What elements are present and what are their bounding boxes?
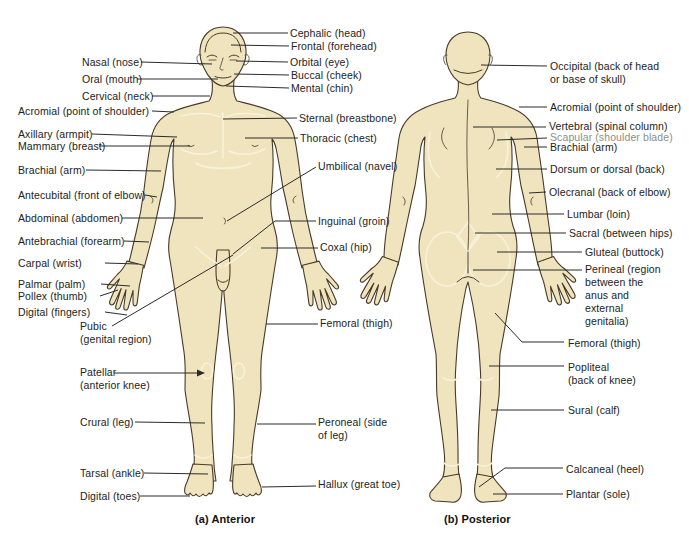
label-sural-posterior: Sural (calf) bbox=[568, 404, 620, 417]
label-pubic-anterior: Pubic (genital region) bbox=[80, 320, 152, 346]
label-acromial-posterior: Acromial (point of shoulder) bbox=[550, 101, 681, 114]
label-crural-anterior: Crural (leg) bbox=[80, 416, 134, 429]
label-caption-posterior: (b) Posterior bbox=[444, 513, 511, 526]
posterior-left-hand bbox=[354, 252, 401, 309]
label-caption-anterior: (a) Anterior bbox=[195, 513, 255, 526]
label-abdominal-anterior: Abdominal (abdomen) bbox=[18, 212, 123, 225]
label-sternal-anterior: Sternal (breastbone) bbox=[299, 112, 397, 125]
leader-digital-fingers bbox=[105, 312, 127, 315]
leader-mental bbox=[226, 86, 289, 88]
label-oral-anterior: Oral (mouth) bbox=[82, 73, 142, 86]
anterior-right-hand bbox=[300, 258, 344, 313]
anterior-left-foot bbox=[185, 464, 214, 497]
label-mammary-anterior: Mammary (breast) bbox=[18, 140, 105, 153]
label-cervical-anterior: Cervical (neck) bbox=[82, 90, 154, 103]
label-plantar-posterior: Plantar (sole) bbox=[566, 488, 630, 501]
leader-hallux bbox=[262, 486, 316, 487]
label-dorsum-posterior: Dorsum or dorsal (back) bbox=[550, 163, 665, 176]
label-brachial-anterior: Brachial (arm) bbox=[18, 164, 85, 177]
label-olecranal-posterior: Olecranal (back of elbow) bbox=[549, 186, 671, 199]
label-mental-anterior: Mental (chin) bbox=[291, 82, 353, 95]
label-digital-toes-anterior: Digital (toes) bbox=[80, 490, 140, 503]
leader-occipital bbox=[481, 65, 547, 66]
label-pollex-anterior: Pollex (thumb) bbox=[18, 290, 87, 303]
label-antecubital-anterior: Antecubital (front of elbow) bbox=[18, 189, 146, 202]
label-inguinal-anterior: Inguinal (groin) bbox=[318, 215, 390, 228]
label-femoral-posterior: Femoral (thigh) bbox=[568, 337, 641, 350]
label-gluteal-posterior: Gluteal (buttock) bbox=[585, 246, 664, 259]
label-carpal-anterior: Carpal (wrist) bbox=[18, 257, 82, 270]
label-peroneal-anterior: Peroneal (side of leg) bbox=[318, 416, 387, 442]
leader-acromial-anterior bbox=[152, 111, 174, 112]
label-digital-fingers-anterior: Digital (fingers) bbox=[18, 306, 90, 319]
label-femoral-anterior: Femoral (thigh) bbox=[320, 317, 393, 330]
label-nasal-anterior: Nasal (nose) bbox=[82, 56, 143, 69]
label-buccal-anterior: Buccal (cheek) bbox=[291, 69, 362, 82]
label-antebrachial-anterior: Antebrachial (forearm) bbox=[18, 235, 125, 248]
anterior-genital bbox=[216, 250, 230, 291]
label-cephalic-anterior: Cephalic (head) bbox=[290, 27, 366, 40]
label-tarsal-anterior: Tarsal (ankle) bbox=[80, 467, 144, 480]
anterior-right-foot bbox=[233, 464, 262, 497]
posterior-right-hand bbox=[535, 252, 582, 309]
label-patellar-anterior: Patellar (anterior knee) bbox=[80, 366, 150, 392]
label-coxal-anterior: Coxal (hip) bbox=[320, 241, 372, 254]
label-occipital-posterior: Occipital (back of head or base of skull… bbox=[550, 60, 659, 86]
anatomy-diagram: Nasal (nose)Oral (mouth)Cervical (neck)A… bbox=[0, 0, 689, 543]
label-popliteal-posterior: Popliteal (back of knee) bbox=[568, 361, 636, 387]
label-hallux-anterior: Hallux (great toe) bbox=[318, 478, 400, 491]
label-lumbar-posterior: Lumbar (loin) bbox=[567, 208, 630, 221]
label-calcaneal-posterior: Calcaneal (heel) bbox=[566, 463, 644, 476]
label-orbital-anterior: Orbital (eye) bbox=[290, 56, 349, 69]
label-thoracic-anterior: Thoracic (chest) bbox=[300, 132, 377, 145]
label-umbilical-anterior: Umbilical (navel) bbox=[318, 160, 397, 173]
posterior-head bbox=[446, 32, 490, 85]
label-acromial-anterior: Acromial (point of shoulder) bbox=[18, 105, 149, 118]
label-brachial-posterior: Brachial (arm) bbox=[550, 141, 617, 154]
posterior-body bbox=[384, 78, 552, 477]
label-perineal-posterior: Perineal (region between the anus and ex… bbox=[585, 263, 661, 328]
label-sacral-posterior: Sacral (between hips) bbox=[569, 227, 673, 240]
posterior-left-foot bbox=[430, 474, 462, 502]
posterior-figure bbox=[354, 32, 582, 502]
label-frontal-anterior: Frontal (forehead) bbox=[291, 40, 377, 53]
leader-buccal bbox=[234, 74, 289, 75]
